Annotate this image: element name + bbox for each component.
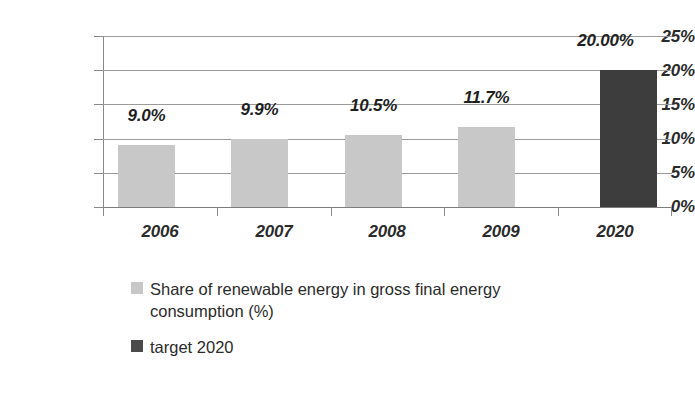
- data-label-2006: 9.0%: [89, 107, 204, 124]
- bar-2009[interactable]: [458, 127, 515, 207]
- chart-legend: Share of renewable energy in gross final…: [131, 278, 601, 372]
- x-axis-label-2007: 2007: [217, 223, 331, 241]
- bar-chart: 25% 20% 15% 10% 5% 0% 9.0% 9.9% 10.5% 11…: [0, 0, 695, 403]
- legend-swatch-target-icon: [131, 340, 143, 352]
- data-label-2020: 20.00%: [543, 32, 668, 49]
- legend-swatch-share-icon: [131, 282, 143, 294]
- bar-2006[interactable]: [118, 145, 175, 207]
- y-axis-tick-5: [94, 173, 103, 174]
- x-axis-tick-5: [671, 207, 672, 216]
- x-axis-tick-2: [331, 207, 332, 216]
- bar-2007[interactable]: [231, 139, 288, 207]
- legend-label-target: target 2020: [150, 336, 233, 358]
- legend-entry-share[interactable]: Share of renewable energy in gross final…: [131, 278, 601, 322]
- legend-entry-target[interactable]: target 2020: [131, 336, 601, 358]
- data-label-2009: 11.7%: [429, 89, 544, 106]
- x-axis-label-2009: 2009: [444, 223, 558, 241]
- x-axis-tick-3: [444, 207, 445, 216]
- y-axis-tick-10: [94, 139, 103, 140]
- x-axis-label-2008: 2008: [330, 223, 444, 241]
- legend-label-share: Share of renewable energy in gross final…: [150, 278, 580, 322]
- bar-2008[interactable]: [345, 135, 402, 207]
- x-axis-label-2020: 2020: [558, 223, 672, 241]
- x-axis-ticks: [103, 207, 672, 217]
- y-axis-tick-15: [94, 104, 103, 105]
- x-axis-tick-1: [217, 207, 218, 216]
- x-axis-tick-0: [103, 207, 104, 216]
- x-axis-tick-4: [558, 207, 559, 216]
- x-axis-label-2006: 2006: [103, 223, 217, 241]
- y-axis-tick-20: [94, 70, 103, 71]
- y-axis-tick-25: [94, 36, 103, 37]
- bar-2020[interactable]: [600, 70, 657, 207]
- data-label-2008: 10.5%: [316, 97, 431, 114]
- y-axis-tick-0: [94, 207, 103, 208]
- data-label-2007: 9.9%: [202, 101, 317, 118]
